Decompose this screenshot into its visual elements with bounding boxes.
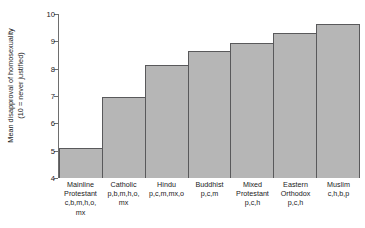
x-label-name-2: Orthodox [274,189,317,198]
bar-muslim [316,24,360,178]
x-label-buddhist: Buddhistp,c,m [188,180,231,217]
x-label-eastern-orthodox: EasternOrthodoxp,c,h [274,180,317,217]
x-label-hindu: Hindup,c,m,mx,o [145,180,188,217]
bar-catholic [102,97,146,178]
x-label-codes-2: mx [59,208,102,217]
y-tick-label: 10 [47,10,55,19]
x-label-codes: p,c,m [188,189,231,198]
x-label-name: Mixed [231,180,274,189]
x-label-name: Mainline [59,180,102,189]
bar-chart-figure: Mean disapproval of homosexuality (10 = … [0,0,365,228]
x-label-name: Hindu [145,180,188,189]
y-tick-label: 7 [51,92,55,101]
x-label-name: Catholic [102,180,145,189]
x-label-name: Eastern [274,180,317,189]
bar-series [59,14,360,178]
x-label-catholic: Catholicp,b,m,h,o,mx [102,180,145,217]
y-axis-title-line-2: (10 = never justified) [15,28,25,142]
bar-eastern-orthodox [273,33,317,178]
y-tick-label: 5 [51,146,55,155]
x-label-codes-2: mx [102,198,145,207]
x-label-codes: c,h,b,p [317,189,360,198]
bar-hindu [145,65,189,178]
y-tick-label: 4 [51,174,55,183]
plot-area: 10987654 [58,14,360,178]
x-label-mainline-protestant: MainlineProtestantc,b,m,h,o,mx [59,180,102,217]
y-tick-label: 9 [51,37,55,46]
x-label-codes: p,c,h [231,198,274,207]
bar-mainline-protestant [59,148,103,178]
x-label-name-2: Protestant [59,189,102,198]
x-label-codes: p,c,m,mx,o [145,189,188,198]
bar-buddhist [188,51,232,178]
y-axis-title-line-1: Mean disapproval of homosexuality [6,28,16,142]
x-label-name: Muslim [317,180,360,189]
x-label-muslim: Muslimc,h,b,p [317,180,360,217]
y-axis-title: Mean disapproval of homosexuality (10 = … [0,0,30,170]
x-label-codes: p,c,h [274,198,317,207]
y-tick-label: 8 [51,64,55,73]
bar-mixed-protestant [230,43,274,178]
x-label-codes: c,b,m,h,o, [59,198,102,207]
y-tick-label: 6 [51,119,55,128]
x-axis-labels: MainlineProtestantc,b,m,h,o,mxCatholicp,… [59,180,360,217]
x-label-mixed-protestant: MixedProtestantp,c,h [231,180,274,217]
y-axis-title-text: Mean disapproval of homosexuality (10 = … [6,28,25,142]
x-label-codes: p,b,m,h,o, [102,189,145,198]
x-label-name-2: Protestant [231,189,274,198]
x-label-name: Buddhist [188,180,231,189]
